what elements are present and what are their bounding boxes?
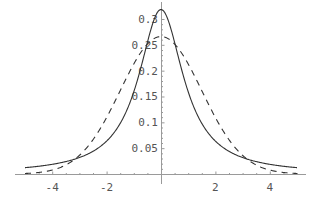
y-ticks: 0.050.10.150.20.250.3 bbox=[132, 13, 165, 169]
x-tick-label: -4 bbox=[46, 181, 60, 194]
y-tick-label: 0.15 bbox=[132, 90, 159, 103]
axes: -4-224 0.050.10.150.20.250.3 bbox=[15, 2, 306, 194]
y-tick-label: 0.05 bbox=[132, 142, 159, 155]
y-tick-label: 0.3 bbox=[138, 13, 158, 26]
x-tick-label: 4 bbox=[266, 181, 273, 194]
x-tick-label: 2 bbox=[212, 181, 219, 194]
chart-plot: -4-224 0.050.10.150.20.250.3 bbox=[0, 0, 318, 199]
y-tick-label: 0.25 bbox=[132, 39, 159, 52]
x-tick-label: -2 bbox=[100, 181, 113, 194]
y-tick-label: 0.1 bbox=[138, 116, 158, 129]
